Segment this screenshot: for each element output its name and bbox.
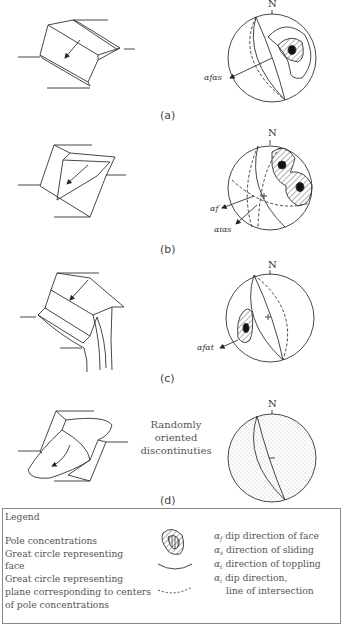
legend-label: dip direction, — [225, 572, 287, 583]
annotation-line-1: Randomly oriented — [128, 418, 224, 444]
alpha-subscript: t — [220, 563, 222, 570]
circular-failure-block — [18, 411, 128, 481]
legend-alpha-s: αs direction of sliding — [214, 544, 314, 559]
legend-great-circle-plane-3: of pole concentrations — [5, 599, 109, 611]
legend-great-circle-face-2: face — [5, 560, 24, 572]
direction-label-c: αfαt — [197, 343, 214, 352]
north-label-c: N — [268, 259, 277, 270]
stereonet-a — [228, 10, 316, 102]
legend-alpha-f: αf dip direction of face — [214, 530, 319, 545]
legend-pole-concentrations: Pole concentrations — [5, 535, 97, 547]
legend-title: Legend — [5, 511, 40, 523]
direction-label-b1: αf — [210, 204, 218, 213]
plane-failure-block — [18, 20, 135, 88]
legend-alpha-i-line2: line of intersection — [226, 585, 314, 597]
legend-label: direction of toppling — [225, 558, 320, 569]
caption-a: (a) — [160, 109, 175, 122]
north-label-b: N — [268, 127, 277, 138]
north-label-a: N — [268, 0, 277, 9]
direction-label-a: αfαs — [204, 73, 222, 82]
alpha-subscript: s — [220, 549, 223, 556]
legend-alpha-t: αt direction of toppling — [214, 558, 321, 573]
stereonet-b — [222, 140, 312, 230]
stereonet-c — [220, 270, 314, 362]
legend-label: dip direction of face — [225, 530, 319, 541]
wedge-failure-block — [18, 145, 126, 217]
caption-b: (b) — [160, 243, 176, 256]
random-discontinuities-annotation: Randomly oriented discontinuties — [128, 418, 224, 457]
direction-label-b2: αiαs — [214, 225, 231, 234]
legend-great-circle-plane-2: plane corresponding to centers — [5, 586, 151, 598]
stereonet-d — [228, 410, 316, 502]
legend-great-circle-plane-1: Great circle representing — [5, 573, 123, 585]
alpha-subscript: f — [220, 535, 222, 542]
caption-d: (d) — [160, 494, 176, 507]
north-label-d: N — [268, 398, 277, 409]
legend-label: direction of sliding — [226, 544, 314, 555]
legend-great-circle-face-1: Great circle representing — [5, 548, 123, 560]
annotation-line-2: discontinuties — [128, 444, 224, 457]
alpha-subscript: i — [220, 577, 222, 584]
toppling-block — [20, 273, 124, 372]
caption-c: (c) — [160, 372, 175, 385]
